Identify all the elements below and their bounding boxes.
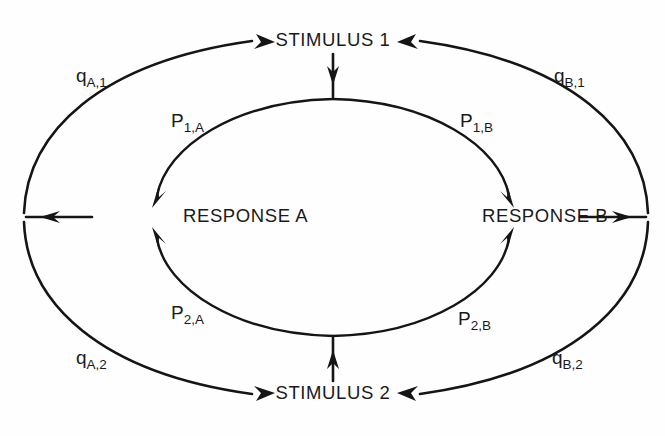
diagram-canvas: STIMULUS 1 STIMULUS 2 RESPONSE A RESPONS… bbox=[0, 0, 665, 436]
edge-label-q-b-1-base: q bbox=[554, 65, 565, 86]
edge-outer-response-a-to-stimulus-2 bbox=[24, 222, 275, 401]
node-label-response-b: RESPONSE B bbox=[482, 205, 608, 226]
edge-label-p-1-a-base: P bbox=[171, 110, 184, 131]
edge-label-p-2-b-base: P bbox=[458, 308, 471, 329]
edge-label-q-b-2: qB,2 bbox=[552, 347, 583, 372]
edge-label-q-b-2-sub: B,2 bbox=[563, 357, 583, 372]
node-label-response-a: RESPONSE A bbox=[183, 205, 308, 226]
edge-label-q-a-2-sub: A,2 bbox=[87, 357, 107, 372]
edge-label-p-1-a-sub: 1,A bbox=[184, 120, 204, 135]
edge-label-q-a-1: qA,1 bbox=[76, 65, 107, 90]
edge-label-q-a-1-base: q bbox=[76, 65, 87, 86]
edge-label-q-b-2-base: q bbox=[552, 347, 563, 368]
edge-outer-response-a-to-stimulus-1 bbox=[24, 34, 275, 213]
edge-label-q-b-1-sub: B,1 bbox=[565, 75, 585, 90]
arrowhead-q-b-1 bbox=[397, 34, 418, 49]
node-label-stimulus-2: STIMULUS 2 bbox=[276, 382, 391, 403]
arrowhead-q-b-2 bbox=[397, 386, 418, 401]
edge-label-p-2-a: P2,A bbox=[171, 302, 204, 327]
arrowhead-q-a-2 bbox=[254, 386, 275, 401]
edge-label-p-1-b-sub: 1,B bbox=[473, 120, 493, 135]
edge-label-p-2-a-sub: 2,A bbox=[184, 312, 204, 327]
edge-outer-response-b-to-stimulus-2 bbox=[397, 222, 648, 401]
edge-inner-stimulus-1-to-response-b bbox=[333, 99, 514, 208]
edge-label-p-1-a: P1,A bbox=[171, 110, 204, 135]
edge-label-p-2-b-sub: 2,B bbox=[471, 318, 491, 333]
edge-label-q-a-2-base: q bbox=[76, 347, 87, 368]
edge-path-q-b-2 bbox=[420, 222, 648, 394]
edge-label-p-1-b-base: P bbox=[460, 110, 473, 131]
edge-label-q-a-1-sub: A,1 bbox=[87, 75, 107, 90]
stimulus-response-diagram: STIMULUS 1 STIMULUS 2 RESPONSE A RESPONS… bbox=[0, 0, 665, 436]
arrowhead-q-a-1 bbox=[254, 34, 275, 49]
edge-label-q-a-2: qA,2 bbox=[76, 347, 107, 372]
connector-stimulus-2-up bbox=[327, 338, 339, 381]
edge-label-q-b-1: qB,1 bbox=[554, 65, 585, 90]
edge-label-p-2-a-base: P bbox=[171, 302, 184, 323]
node-label-stimulus-1: STIMULUS 1 bbox=[276, 29, 391, 50]
connector-stimulus-1-down bbox=[327, 54, 339, 97]
edge-label-p-1-b: P1,B bbox=[460, 110, 493, 135]
edge-outer-response-b-to-stimulus-1 bbox=[397, 34, 648, 213]
edge-label-p-2-b: P2,B bbox=[458, 308, 491, 333]
connector-response-a-left bbox=[26, 211, 92, 223]
edge-path-q-b-1 bbox=[420, 41, 648, 213]
edge-path-p-1-b bbox=[333, 99, 509, 196]
